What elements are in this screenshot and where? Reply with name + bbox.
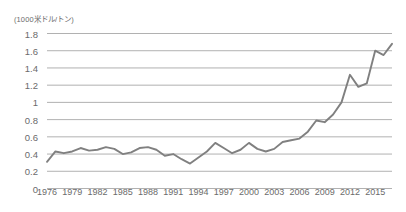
y-axis-tick-label: 1.8 — [12, 28, 38, 39]
x-axis-tick-label: 2015 — [358, 187, 392, 197]
y-axis-tick-label: 1.2 — [12, 80, 38, 91]
line-chart: (1000米ドル/トン) 1.81.61.41.210.80.60.40.20 … — [0, 0, 406, 212]
y-axis-tick-label: 1.4 — [12, 62, 38, 73]
y-axis-tick-label: 0.4 — [12, 149, 38, 160]
y-axis-tick-label: 0.6 — [12, 131, 38, 142]
y-axis-tick-label: 1 — [12, 97, 38, 108]
y-axis-tick-label: 0.2 — [12, 166, 38, 177]
y-axis-tick-label: 1.6 — [12, 45, 38, 56]
chart-canvas — [0, 0, 406, 212]
y-axis-tick-label: 0.8 — [12, 114, 38, 125]
data-series-line — [47, 44, 392, 164]
gridline-group — [47, 34, 392, 189]
plot-area — [0, 0, 406, 212]
